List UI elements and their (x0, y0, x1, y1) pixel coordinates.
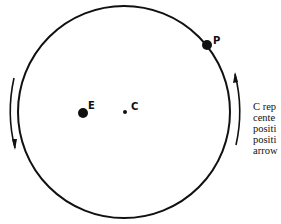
orbit-diagram: E C P (0, 0, 281, 224)
center-dot (123, 110, 127, 114)
earth-label: E (88, 100, 95, 111)
earth-dot (78, 108, 88, 118)
caption-line: positi (253, 123, 278, 134)
caption: C rep cente positi positi arrow (253, 101, 278, 156)
caption-line: arrow (253, 145, 278, 156)
center-label: C (131, 101, 138, 112)
arrow-right-up-icon (233, 72, 240, 145)
planet-label: P (213, 35, 220, 46)
caption-line: positi (253, 134, 278, 145)
caption-line: C rep (253, 101, 278, 112)
caption-line: cente (253, 112, 278, 123)
arrow-left-down-icon (10, 78, 17, 150)
planet-dot (202, 40, 212, 50)
